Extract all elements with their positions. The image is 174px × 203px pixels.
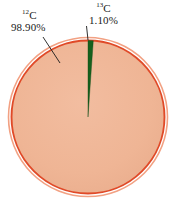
label-carbon-12: 12C 98.90%: [11, 9, 46, 34]
pie-chart-figure: 12C 98.90% 13C 1.10%: [0, 0, 174, 203]
label-carbon-13: 13C 1.10%: [89, 2, 118, 27]
label-carbon-12-symbol: 12C: [20, 9, 37, 21]
label-carbon-13-element: C: [103, 2, 110, 14]
label-carbon-12-element: C: [29, 9, 36, 21]
label-carbon-13-percent: 1.10%: [89, 14, 118, 27]
label-carbon-13-symbol: 13C: [96, 2, 111, 14]
label-carbon-12-percent: 98.90%: [11, 21, 46, 34]
